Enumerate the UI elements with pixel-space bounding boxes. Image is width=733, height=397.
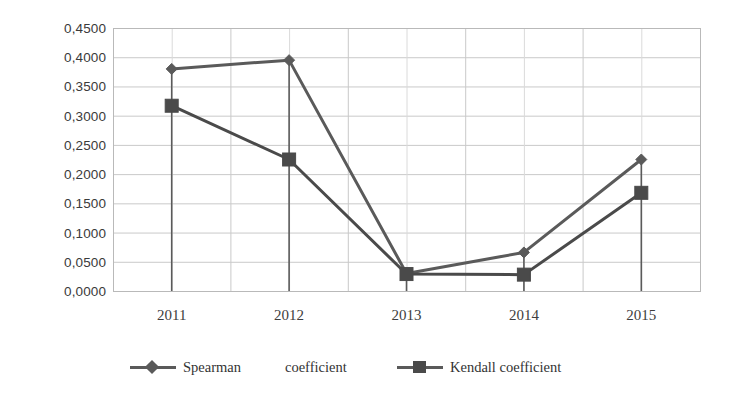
x-axis-tick-label: 2013 [392,307,422,324]
y-axis-tick-labels: 0,45000,40000,35000,30000,25000,20000,15… [18,0,106,397]
legend-label-kendall: Kendall coefficient [450,359,561,376]
line-chart: 0,45000,40000,35000,30000,25000,20000,15… [0,0,733,397]
legend-label-spearman-part2: coefficient [285,359,347,375]
legend-label-spearman: Spearmancoefficient [183,359,347,376]
legend-key-diamond-icon [130,359,176,375]
x-axis-tick-label: 2015 [626,307,656,324]
data-point-marker-square[interactable] [517,268,530,281]
y-axis-tick-label: 0,2000 [64,167,106,182]
legend-item-spearman[interactable]: Spearmancoefficient [130,356,347,378]
y-axis-tick-label: 0,4000 [64,50,106,65]
y-axis-tick-label: 0,2500 [64,137,106,152]
y-axis-tick-label: 0,0000 [64,284,106,299]
legend-key-square-icon [397,359,443,375]
legend-label-spearman-part1: Spearman [183,359,241,375]
y-axis-tick-label: 0,3000 [64,108,106,123]
y-axis-tick-label: 0,3500 [64,79,106,94]
y-axis-tick-label: 0,0500 [64,254,106,269]
data-point-marker-square[interactable] [635,186,648,199]
data-point-marker-square[interactable] [400,268,413,281]
data-point-marker-square[interactable] [165,99,178,112]
chart-plot-area [0,0,733,397]
x-axis-tick-label: 2014 [509,307,539,324]
chart-legend: Spearmancoefficient Kendall coefficient [0,356,733,382]
x-axis-tick-label: 2012 [274,307,304,324]
legend-item-kendall[interactable]: Kendall coefficient [397,356,561,378]
y-axis-tick-label: 0,1000 [64,225,106,240]
x-axis-tick-label: 2011 [157,307,186,324]
x-axis-tick-labels: 20112012201320142015 [0,307,733,331]
y-axis-tick-label: 0,1500 [64,196,106,211]
y-axis-tick-label: 0,4500 [64,21,106,36]
data-point-marker-square[interactable] [283,153,296,166]
